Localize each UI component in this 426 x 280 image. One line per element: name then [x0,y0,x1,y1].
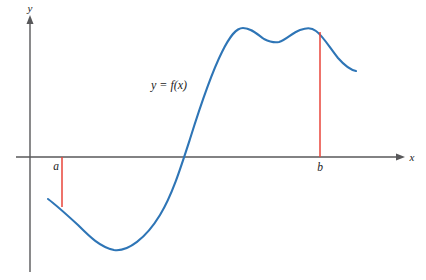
point-label-a: a [53,160,59,172]
function-graph-figure: y x a b y = f(x) [0,0,426,280]
point-label-b: b [317,161,323,173]
function-curve [48,28,356,250]
x-axis-arrow-icon [396,154,405,161]
y-axis-label: y [27,2,33,14]
curve-equation-label: y = f(x) [150,78,187,92]
x-axis-label: x [409,151,415,163]
y-axis-arrow-icon [27,15,34,24]
graph-canvas: y x a b y = f(x) [0,0,426,280]
